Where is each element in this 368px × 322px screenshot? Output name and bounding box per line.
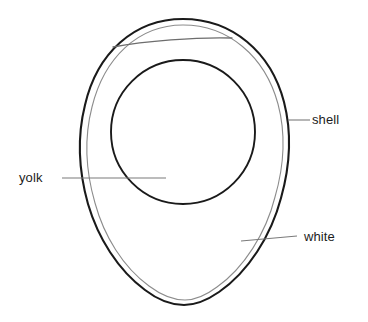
yolk-circle <box>111 60 255 204</box>
egg-cross-section-illustration <box>0 0 368 322</box>
label-white: white <box>304 229 335 244</box>
label-yolk: yolk <box>19 170 43 185</box>
label-shell: shell <box>312 112 339 127</box>
egg-diagram: shell yolk white <box>0 0 368 322</box>
